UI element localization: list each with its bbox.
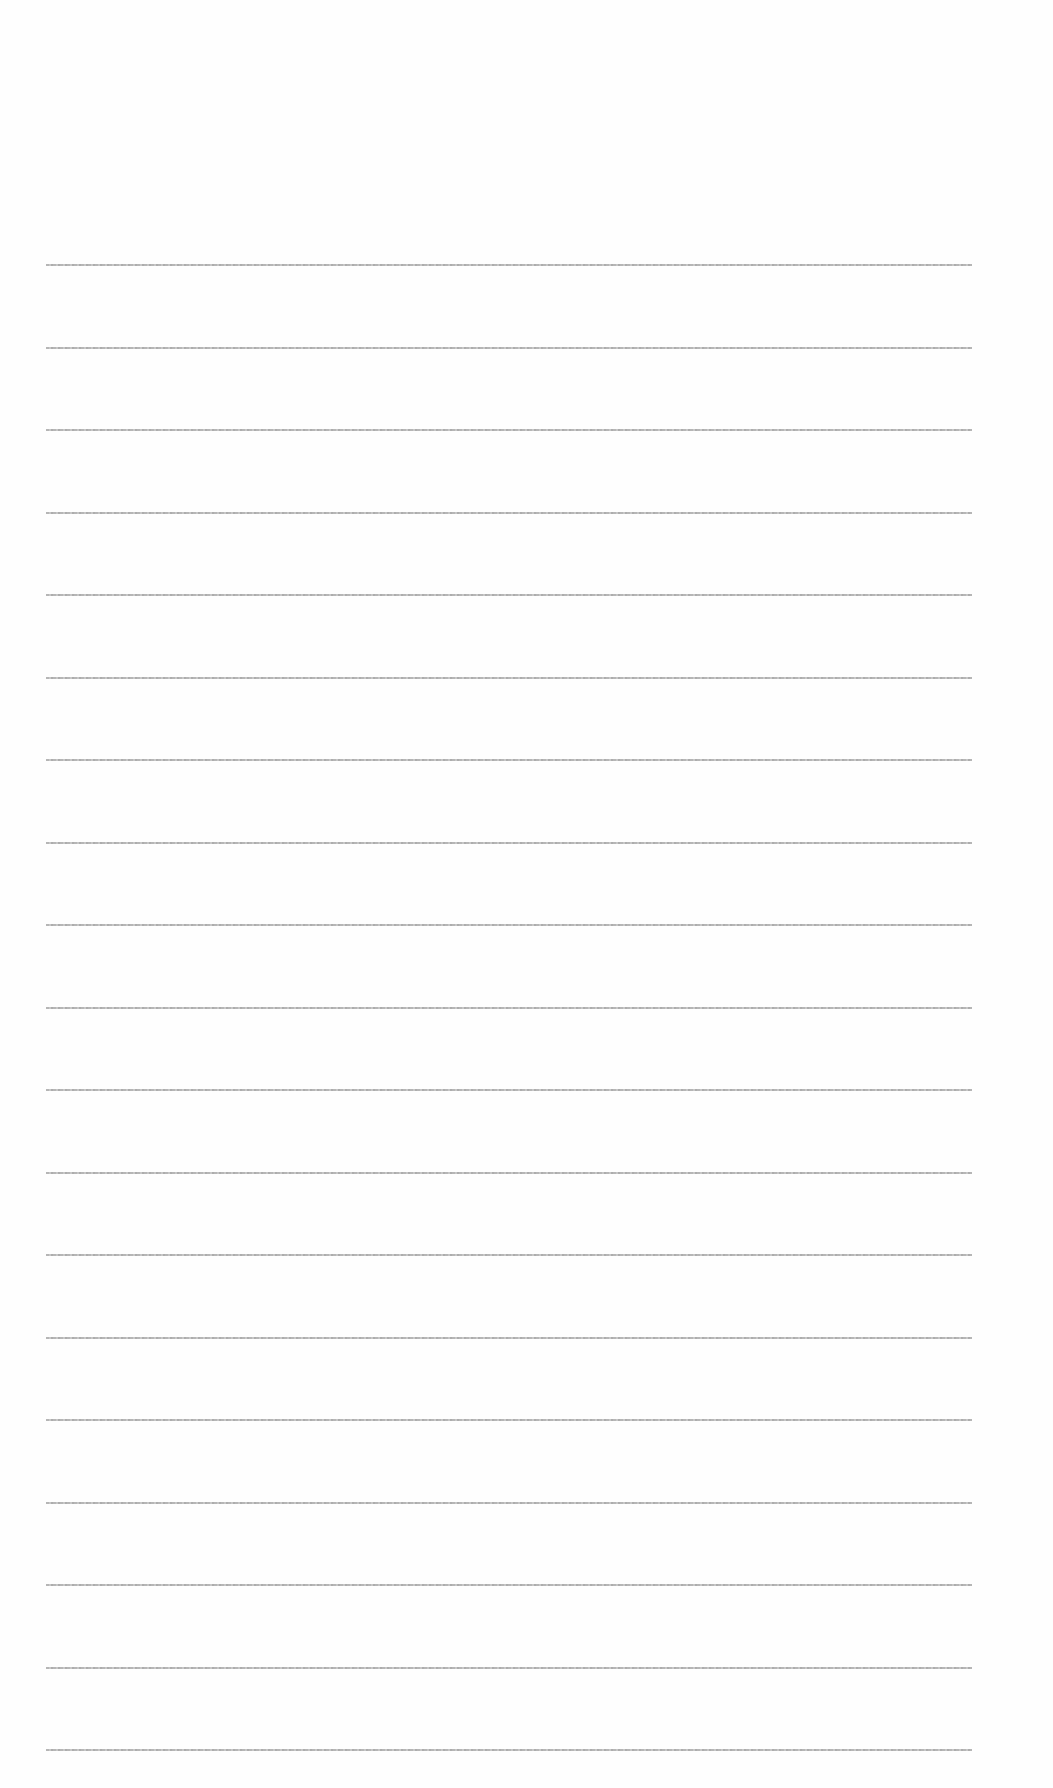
ruled-line — [46, 1337, 972, 1339]
ruled-line — [46, 1254, 972, 1256]
ruled-line — [46, 924, 972, 926]
ruled-line — [46, 1089, 972, 1091]
ruled-line — [46, 1419, 972, 1421]
ruled-line — [46, 347, 972, 349]
ruled-line — [46, 429, 972, 431]
ruled-line — [46, 677, 972, 679]
ruled-line — [46, 1667, 972, 1669]
ruled-line — [46, 1749, 972, 1751]
ruled-line — [46, 842, 972, 844]
ruled-line — [46, 1584, 972, 1586]
ruled-line — [46, 512, 972, 514]
ruled-line — [46, 1502, 972, 1504]
ruled-line — [46, 594, 972, 596]
lined-paper-page — [0, 0, 1053, 1788]
ruled-line — [46, 1007, 972, 1009]
ruled-line — [46, 759, 972, 761]
ruled-line — [46, 264, 972, 266]
ruled-line — [46, 1172, 972, 1174]
